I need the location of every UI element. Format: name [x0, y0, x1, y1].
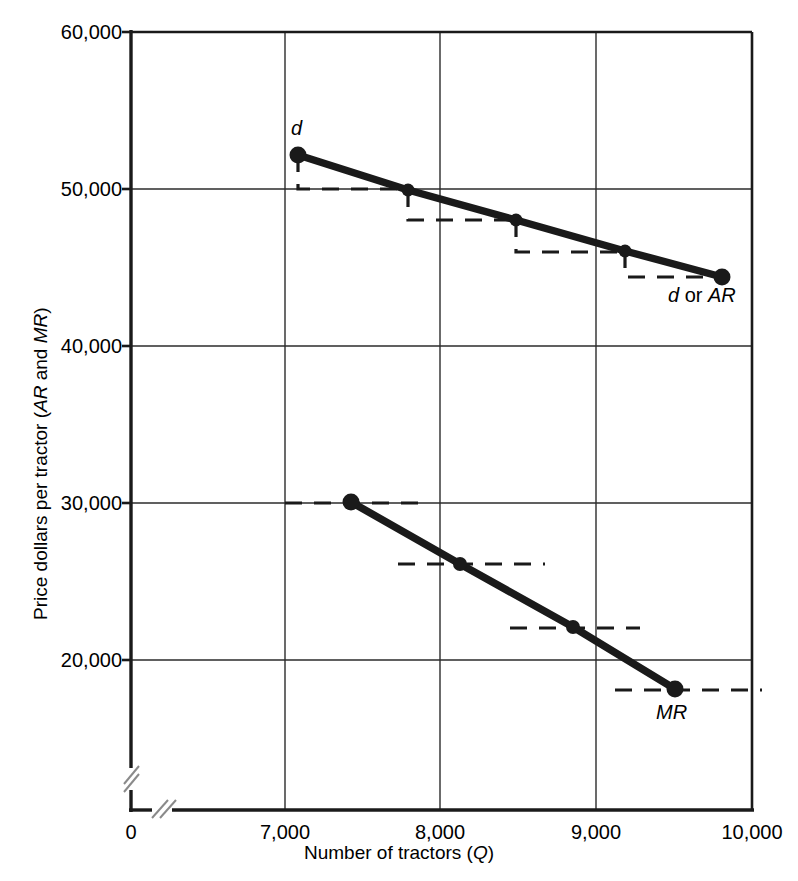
economics-ar-mr-chart: 60,000 50,000 40,000 30,000 20,000 0 7,0… — [0, 0, 798, 881]
d-curve-label: d — [291, 118, 302, 138]
x-tick-label-9000: 9,000 — [571, 822, 621, 842]
series-ar-curve — [290, 147, 731, 286]
x-axis-title-symbol: Q — [473, 842, 488, 863]
ar-point-5 — [714, 269, 731, 286]
ar-point-3 — [510, 214, 523, 227]
y-tick-label-60000: 60,000 — [2, 22, 122, 42]
y-tick-label-20000: 20,000 — [2, 650, 122, 670]
plot-frame — [131, 32, 752, 810]
x-tick-label-10000: 10,000 — [721, 822, 782, 842]
y-tick-label-50000: 50,000 — [2, 179, 122, 199]
y-tick-label-40000: 40,000 — [2, 336, 122, 356]
ar-label-symbol-d: d — [668, 284, 679, 306]
ar-point-4 — [619, 245, 632, 258]
ar-label-conjunction: or — [679, 284, 708, 306]
x-tick-label-0: 0 — [125, 822, 136, 842]
ar-label-symbol-ar: AR — [708, 284, 736, 306]
mr-point-2 — [453, 557, 467, 571]
x-tick-label-7000: 7,000 — [260, 822, 310, 842]
mr-point-4 — [667, 681, 684, 698]
series-mr-curve — [343, 494, 684, 698]
y-axis-title-suffix: ) — [30, 307, 51, 313]
mr-curve-label: MR — [656, 702, 687, 722]
x-tick-label-8000: 8,000 — [415, 822, 465, 842]
y-axis-break-icon — [124, 766, 139, 792]
grid-lines — [131, 32, 752, 810]
y-axis-title-symbol-ar: AR — [30, 386, 51, 412]
y-axis-title-symbol-mr: MR — [30, 314, 51, 344]
mr-point-3 — [566, 620, 580, 634]
mr-line — [351, 502, 675, 689]
y-axis-title-conjunction: and — [30, 343, 51, 385]
ar-point-1 — [290, 147, 307, 164]
y-tick-label-30000: 30,000 — [2, 493, 122, 513]
ar-point-2 — [402, 184, 415, 197]
chart-plot-area — [0, 0, 798, 881]
d-or-ar-curve-label: d or AR — [668, 285, 736, 305]
y-axis-title: Price dollars per tractor (AR and MR) — [30, 307, 52, 620]
y-axis-title-prefix: Price dollars per tractor ( — [30, 412, 51, 620]
x-axis-title-text: Number of tractors — [304, 842, 461, 863]
mr-point-1 — [343, 494, 360, 511]
ar-line — [298, 155, 722, 277]
x-axis-title: Number of tractors (Q) — [0, 842, 798, 864]
